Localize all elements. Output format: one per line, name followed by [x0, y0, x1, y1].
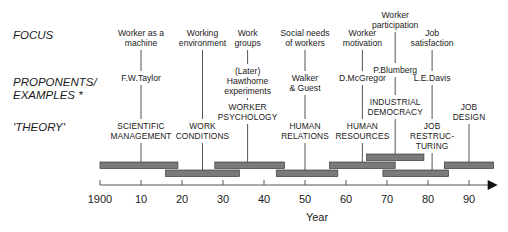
axis-arrow-icon [488, 180, 498, 190]
focus-label-line: machine [118, 38, 164, 48]
x-tick-label: 1900 [88, 193, 112, 205]
x-tick-label: 70 [381, 193, 393, 205]
theory-label-line: RESOURCES [335, 131, 389, 141]
era-bar [276, 170, 338, 177]
focus-label-line: motivation [343, 38, 382, 48]
proponent-label-line: Hawthorne [224, 76, 271, 86]
era-bar [383, 170, 449, 177]
proponent-label-line: & Guest [289, 83, 320, 93]
theory-label-line: JOB [453, 102, 486, 112]
x-tick-label: 50 [299, 193, 311, 205]
theory-label-line: JOB [410, 121, 454, 131]
focus-label: Workingenvironment [179, 28, 226, 48]
focus-label-line: Worker as a [118, 28, 164, 38]
theory-label: HUMANRELATIONS [281, 121, 329, 141]
theory-label-line: WORKER [218, 102, 278, 112]
theory-label-line: WORK [176, 121, 230, 131]
proponent-label-line: (Later) [224, 66, 271, 76]
theory-label-line: RELATIONS [281, 131, 329, 141]
era-bar [166, 170, 240, 177]
era-bar [367, 154, 424, 161]
focus-label: Worker as amachine [118, 28, 164, 48]
proponent-label: F.W.Taylor [121, 73, 161, 83]
proponent-label: L.E.Davis [414, 73, 451, 83]
proponent-label: (Later)Hawthorneexperiments [224, 66, 271, 96]
focus-label: Workgroups [234, 28, 260, 48]
focus-label: Workermotivation [343, 28, 382, 48]
focus-label: Jobsatisfaction [411, 28, 454, 48]
theory-label-line: PSYCHOLOGY [218, 112, 278, 122]
focus-label-line: environment [179, 38, 226, 48]
x-tick-label: 90 [463, 193, 475, 205]
proponent-label: Walker& Guest [289, 73, 320, 93]
theory-label: INDUSTRIALDEMOCRACY [368, 97, 423, 117]
theory-label-line: TURING [410, 141, 454, 151]
theory-label: JOBDESIGN [453, 102, 486, 122]
x-axis-title: Year [306, 211, 329, 223]
proponent-label-line: experiments [224, 86, 271, 96]
focus-label-line: Worker [372, 10, 418, 20]
theory-label: HUMANRESOURCES [335, 121, 389, 141]
era-bar [330, 162, 396, 169]
focus-label: Workerparticipation [372, 10, 418, 30]
proponent-label-line: P.Blumberg [373, 65, 417, 75]
x-tick-label: 40 [258, 193, 270, 205]
theory-label-line: CONDITIONS [176, 131, 230, 141]
focus-label-line: satisfaction [411, 38, 454, 48]
proponent-label-line: L.E.Davis [414, 73, 451, 83]
theory-label-line: DESIGN [453, 112, 486, 122]
proponent-label: P.Blumberg [373, 65, 417, 75]
focus-label-line: of workers [280, 38, 329, 48]
focus-label-line: Working [179, 28, 226, 38]
focus-label-line: groups [234, 38, 260, 48]
proponent-label-line: Walker [289, 73, 320, 83]
theory-label-line: HUMAN [335, 121, 389, 131]
theory-label-line: SCIENTIFIC [110, 121, 171, 131]
theory-label-line: HUMAN [281, 121, 329, 131]
proponent-label-line: F.W.Taylor [121, 73, 161, 83]
theory-label-line: DEMOCRACY [368, 107, 423, 117]
era-bar [215, 162, 285, 169]
focus-label-line: Job [411, 28, 454, 38]
x-tick-label: 80 [422, 193, 434, 205]
era-bar [100, 162, 178, 169]
x-tick-label: 60 [340, 193, 352, 205]
theory-label: JOBRESTRUC-TURING [410, 121, 454, 151]
x-tick-label: 10 [135, 193, 147, 205]
theory-label: WORKERPSYCHOLOGY [218, 102, 278, 122]
focus-label-line: Social needs [280, 28, 329, 38]
theory-label-line: MANAGEMENT [110, 131, 171, 141]
theory-label: WORKCONDITIONS [176, 121, 230, 141]
theory-label-line: RESTRUC- [410, 131, 454, 141]
x-tick-label: 30 [217, 193, 229, 205]
theory-label-line: INDUSTRIAL [368, 97, 423, 107]
era-bar [444, 162, 493, 169]
focus-label: Social needsof workers [280, 28, 329, 48]
x-tick-label: 20 [176, 193, 188, 205]
focus-label-line: Work [234, 28, 260, 38]
theory-label: SCIENTIFICMANAGEMENT [110, 121, 171, 141]
